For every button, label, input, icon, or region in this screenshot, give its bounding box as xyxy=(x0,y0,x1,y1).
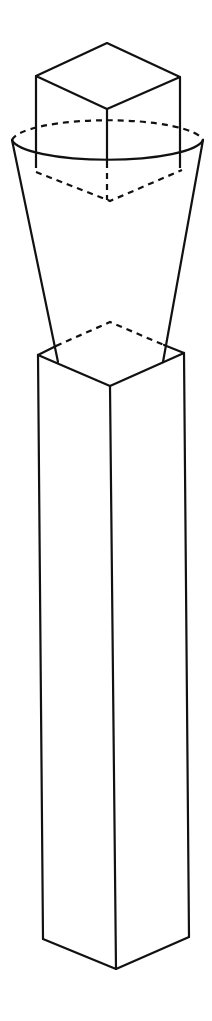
column-top-back-right xyxy=(164,345,184,353)
cube-top-face xyxy=(36,43,180,109)
column-prism xyxy=(38,345,189,969)
column-front-edge xyxy=(110,386,116,969)
column-top-back-left xyxy=(38,346,56,355)
funnel-cube-column-diagram xyxy=(0,0,212,1021)
column-right-edge xyxy=(184,353,189,937)
column-left-edge xyxy=(38,355,43,939)
cube xyxy=(36,43,182,201)
funnel-right-side xyxy=(163,140,203,362)
funnel-bottom-hidden xyxy=(56,322,164,346)
funnel-left-side xyxy=(12,140,58,362)
column-top-front-edges xyxy=(38,353,184,386)
cube-bottom-hidden xyxy=(36,170,182,201)
